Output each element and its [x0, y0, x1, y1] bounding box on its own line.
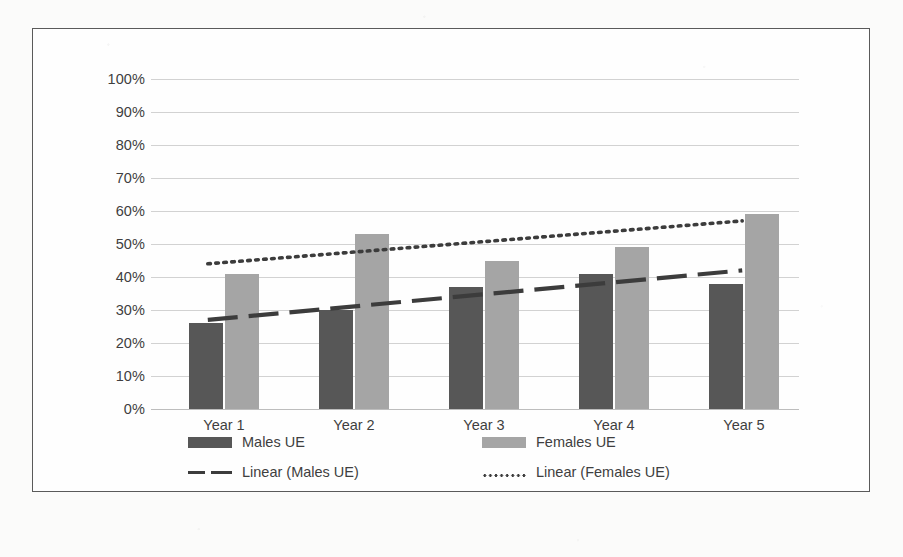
gridline-0 [151, 409, 799, 410]
y-axis-tick-0: 0% [65, 401, 145, 417]
legend-swatch-females-icon [482, 437, 526, 448]
chart-frame: 100% 90% 80% 70% 60% 50% 40% 30% 20% 10%… [32, 28, 870, 492]
y-axis-tick-30: 30% [65, 302, 145, 318]
bar-females-year-3[interactable] [485, 261, 519, 410]
legend-row-bars: Males UE Females UE [151, 427, 799, 457]
legend-item-males-trend[interactable]: Linear (Males UE) [188, 464, 468, 480]
bar-group-year-5 [709, 79, 779, 409]
legend-item-females-trend[interactable]: Linear (Females UE) [468, 464, 762, 480]
y-axis-tick-40: 40% [65, 269, 145, 285]
legend-dotted-line-icon [482, 467, 526, 478]
bar-males-year-1[interactable] [189, 323, 223, 409]
bar-group-year-4 [579, 79, 649, 409]
legend-dashed-line-icon [188, 467, 232, 478]
y-axis-tick-10: 10% [65, 368, 145, 384]
legend-row-trendlines: Linear (Males UE) Linear (Females UE) [151, 457, 799, 487]
y-axis-tick-20: 20% [65, 335, 145, 351]
bar-females-year-2[interactable] [355, 234, 389, 409]
y-axis-tick-80: 80% [65, 137, 145, 153]
legend-label-males-trend: Linear (Males UE) [242, 464, 359, 480]
bar-group-year-2 [319, 79, 389, 409]
legend-item-females-bar[interactable]: Females UE [468, 434, 762, 450]
bar-males-year-4[interactable] [579, 274, 613, 409]
legend-label-females-bar: Females UE [536, 434, 616, 450]
bar-females-year-1[interactable] [225, 274, 259, 409]
y-axis-tick-100: 100% [65, 71, 145, 87]
bar-group-year-1 [189, 79, 259, 409]
bar-males-year-5[interactable] [709, 284, 743, 409]
bar-males-year-2[interactable] [319, 310, 353, 409]
legend-item-males-bar[interactable]: Males UE [188, 434, 468, 450]
y-axis-tick-50: 50% [65, 236, 145, 252]
plot-area: 100% 90% 80% 70% 60% 50% 40% 30% 20% 10%… [151, 79, 799, 409]
legend-label-males-bar: Males UE [242, 434, 305, 450]
chart-legend: Males UE Females UE Linear (Males UE) Li… [151, 427, 799, 487]
y-axis-tick-60: 60% [65, 203, 145, 219]
legend-label-females-trend: Linear (Females UE) [536, 464, 670, 480]
bar-females-year-4[interactable] [615, 247, 649, 409]
y-axis-tick-90: 90% [65, 104, 145, 120]
bar-males-year-3[interactable] [449, 287, 483, 409]
y-axis-tick-70: 70% [65, 170, 145, 186]
bar-females-year-5[interactable] [745, 214, 779, 409]
bar-group-year-3 [449, 79, 519, 409]
legend-swatch-males-icon [188, 437, 232, 448]
